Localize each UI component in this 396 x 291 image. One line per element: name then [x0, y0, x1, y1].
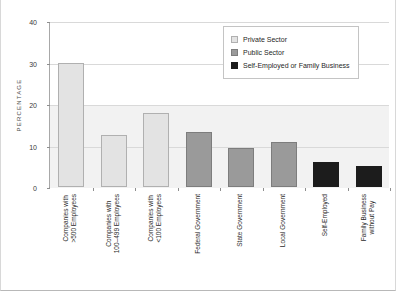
- x-axis-category-label-text: Companies with100–499 Employees: [105, 194, 121, 253]
- x-axis-category-label-text: Federal Government: [194, 194, 202, 254]
- y-axis-tick-label: 20: [7, 102, 37, 109]
- x-axis-category-label-text: State Government: [236, 194, 244, 247]
- bar: [58, 63, 84, 188]
- x-axis-tick-mark: [135, 188, 136, 191]
- x-axis-category-label-text: Companies with<100 Employees: [147, 194, 163, 243]
- legend-label: Private Sector: [243, 36, 287, 43]
- y-axis-tick-label: 0: [7, 185, 37, 192]
- x-axis-category-label-text: Family Businesswithout Pay: [360, 194, 376, 241]
- bar: [313, 162, 339, 187]
- y-axis-tick-mark: [47, 188, 50, 189]
- bar: [186, 132, 212, 187]
- x-axis-tick-mark: [305, 188, 306, 191]
- legend-label: Self-Employed or Family Business: [243, 62, 350, 69]
- gridline: [50, 105, 389, 106]
- x-axis-tick-mark: [390, 188, 391, 191]
- y-axis-tick-mark: [47, 64, 50, 65]
- y-axis-tick-label: 10: [7, 143, 37, 150]
- bar: [228, 148, 254, 187]
- y-axis-tick-mark: [47, 105, 50, 106]
- chart-figure: PERCENTAGE 010203040 Companies with>500 …: [0, 0, 396, 291]
- y-axis-tick-mark: [47, 147, 50, 148]
- bar: [101, 135, 127, 187]
- bar: [143, 113, 169, 187]
- x-axis-tick-mark: [93, 188, 94, 191]
- legend-swatch: [231, 49, 238, 56]
- legend-swatch: [231, 36, 238, 43]
- bar: [271, 142, 297, 187]
- x-axis-category-label-text: Local Government: [279, 194, 287, 247]
- y-axis-tick-mark: [47, 22, 50, 23]
- gridline: [50, 22, 389, 23]
- x-axis-category-label-text: Companies with>500 Employees: [62, 194, 78, 243]
- legend-label: Public Sector: [243, 49, 284, 56]
- legend-item: Self-Employed or Family Business: [231, 59, 350, 72]
- x-axis-tick-mark: [348, 188, 349, 191]
- x-axis-tick-mark: [263, 188, 264, 191]
- bar: [356, 166, 382, 187]
- x-axis-tick-mark: [178, 188, 179, 191]
- legend-swatch: [231, 62, 238, 69]
- x-axis-tick-mark: [220, 188, 221, 191]
- legend-item: Private Sector: [231, 33, 350, 46]
- y-axis-tick-label: 40: [7, 19, 37, 26]
- y-axis-tick-label: 30: [7, 60, 37, 67]
- legend-item: Public Sector: [231, 46, 350, 59]
- chart-legend: Private SectorPublic SectorSelf-Employed…: [223, 26, 359, 79]
- x-axis-category-label-text: Self-Employed: [321, 194, 329, 236]
